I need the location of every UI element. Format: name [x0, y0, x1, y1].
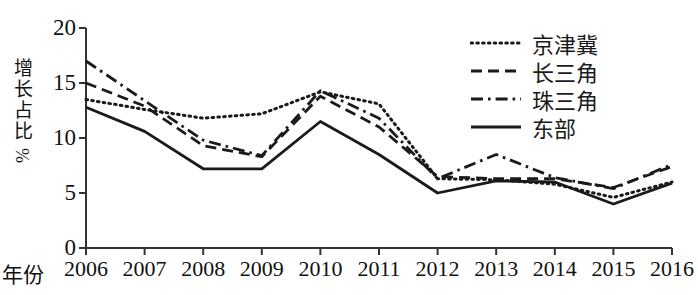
legend-item-3[interactable]: 东部	[470, 114, 598, 140]
legend-line-sample-solid-icon	[470, 120, 522, 134]
legend-item-0[interactable]: 京津冀	[470, 30, 598, 56]
legend-item-2[interactable]: 珠三角	[470, 86, 598, 112]
legend-item-1[interactable]: 长三角	[470, 58, 598, 84]
legend-label: 东部	[532, 111, 576, 143]
legend-line-sample-dash-dot-icon	[470, 92, 522, 106]
legend-line-sample-dotted-icon	[470, 36, 522, 50]
legend-line-sample-dashed-icon	[470, 64, 522, 78]
chart-legend: 京津冀长三角珠三角东部	[470, 30, 598, 142]
